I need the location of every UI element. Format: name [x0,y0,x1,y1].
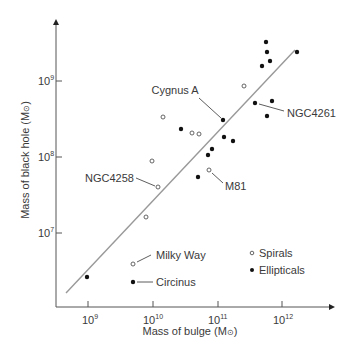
y-ticks [56,81,62,233]
y-axis-label: Mass of black hole (M⊙) [19,101,31,219]
label-ngc4261: NGC4261 [287,107,336,119]
label-ngc4258: NGC4258 [85,172,134,184]
series-spirals [131,84,246,266]
legend-open-circle-icon [250,251,254,255]
legend-filled-circle-icon [250,268,254,272]
svg-text:109: 109 [82,313,98,326]
legend: Spirals Ellipticals [250,247,305,276]
x-axis-label: Mass of bulge (M⊙) [142,325,237,337]
label-milky-way: Milky Way [156,249,206,261]
scatter-chart: 109 1010 1011 1012 107 108 109 Mass of b… [0,0,355,358]
svg-text:1012: 1012 [273,313,293,326]
svg-text:108: 108 [38,150,54,163]
svg-text:109: 109 [38,74,54,87]
legend-ellipticals: Ellipticals [259,264,305,276]
label-cygnus-a: Cygnus A [151,84,199,96]
label-m81: M81 [225,180,246,192]
legend-spirals: Spirals [259,247,293,259]
y-tick-labels: 107 108 109 [38,74,54,239]
label-circinus: Circinus [156,276,196,288]
svg-text:107: 107 [38,226,54,239]
x-ticks [88,301,282,307]
